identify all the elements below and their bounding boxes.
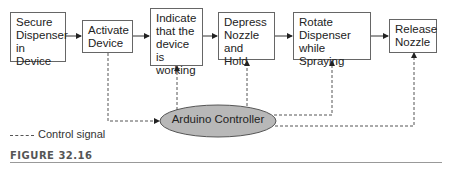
step-label: Secure Dispenser in Device bbox=[16, 16, 68, 67]
dashed-line-icon bbox=[10, 135, 34, 136]
caption-divider bbox=[10, 162, 442, 163]
step-label: Release Nozzle bbox=[395, 23, 437, 49]
step-indicate-working: Indicate that the device is working bbox=[150, 8, 203, 66]
step-label: Rotate Dispenser while Spraying bbox=[299, 16, 351, 67]
legend-label: Control signal bbox=[38, 128, 105, 140]
step-depress-nozzle: Depress Nozzle and Hold bbox=[218, 12, 275, 60]
step-label: Depress Nozzle and Hold bbox=[224, 16, 267, 67]
step-label: Indicate that the device is working bbox=[156, 12, 196, 76]
controller-label: Arduino Controller bbox=[160, 113, 276, 125]
step-label: Activate Device bbox=[88, 24, 129, 50]
figure-caption: FIGURE 32.16 bbox=[10, 150, 93, 161]
step-secure-dispenser: Secure Dispenser in Device bbox=[10, 12, 66, 62]
legend: Control signal bbox=[10, 128, 105, 140]
step-activate-device: Activate Device bbox=[82, 20, 133, 53]
step-release-nozzle: Release Nozzle bbox=[389, 19, 437, 53]
step-rotate-dispenser: Rotate Dispenser while Spraying bbox=[293, 12, 371, 60]
